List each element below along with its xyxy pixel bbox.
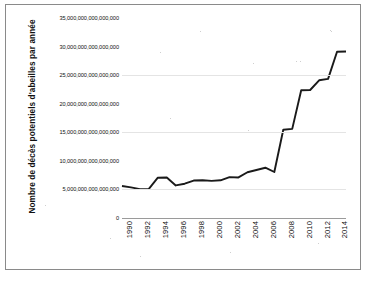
scan-speck bbox=[318, 243, 319, 244]
scan-speck bbox=[300, 61, 301, 62]
x-tick-label: 1998 bbox=[197, 221, 206, 238]
plot-area bbox=[122, 18, 346, 218]
scan-speck bbox=[296, 61, 297, 62]
y-tick-label: 15,000,000,000,000,000 bbox=[59, 129, 119, 135]
gridline bbox=[122, 75, 346, 76]
y-tick-label: 20,000,000,000,000,000 bbox=[59, 101, 119, 107]
y-tick-label: 0 bbox=[116, 215, 119, 221]
scan-speck bbox=[96, 188, 97, 189]
x-tick-label: 2002 bbox=[233, 221, 242, 238]
y-tick-label: 10,000,000,000,000,000 bbox=[59, 158, 119, 164]
x-tick-label: 1994 bbox=[161, 221, 170, 238]
x-axis-tick-labels: 1990199219941996199820002002200420062008… bbox=[122, 221, 346, 281]
y-tick-label: 30,000,000,000,000,000 bbox=[59, 44, 119, 50]
scan-speck bbox=[200, 31, 201, 32]
series-polyline bbox=[122, 51, 346, 189]
x-tick-label: 2008 bbox=[287, 221, 296, 238]
scan-speck bbox=[110, 238, 111, 239]
scan-speck bbox=[140, 256, 141, 257]
scan-speck bbox=[170, 118, 171, 119]
scan-speck bbox=[230, 252, 231, 253]
x-tick-label: 2006 bbox=[269, 221, 278, 238]
x-tick-label: 2012 bbox=[323, 221, 332, 238]
x-tick-label: 2014 bbox=[340, 221, 349, 238]
y-tick-label: 25,000,000,000,000,000 bbox=[59, 72, 119, 78]
scan-speck bbox=[248, 130, 249, 131]
x-tick-label: 1990 bbox=[125, 221, 134, 238]
x-axis-line bbox=[122, 218, 346, 219]
y-axis-tick-labels: 05,000,000,000,000,00010,000,000,000,000… bbox=[33, 0, 119, 284]
x-tick-label: 2010 bbox=[305, 221, 314, 238]
x-tick-label: 1992 bbox=[143, 221, 152, 238]
gridline bbox=[122, 132, 346, 133]
gridline bbox=[122, 189, 346, 190]
scan-speck bbox=[290, 232, 291, 233]
scan-speck bbox=[331, 31, 332, 32]
scan-speck bbox=[160, 52, 161, 53]
y-tick-label: 35,000,000,000,000,000 bbox=[59, 15, 119, 21]
chart-figure: Nombre de décès potentiels d'abeilles pa… bbox=[0, 0, 368, 284]
x-tick-label: 1996 bbox=[179, 221, 188, 238]
scan-speck bbox=[45, 205, 46, 206]
y-tick-label: 5,000,000,000,000,000 bbox=[63, 186, 120, 192]
x-tick-label: 2004 bbox=[251, 221, 260, 238]
series-line-bee-deaths bbox=[122, 18, 346, 218]
scan-speck bbox=[253, 63, 254, 64]
x-tick-label: 2000 bbox=[215, 221, 224, 238]
